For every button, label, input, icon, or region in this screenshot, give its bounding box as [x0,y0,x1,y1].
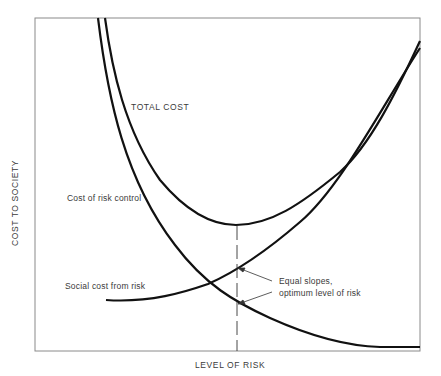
chart-canvas [0,0,441,376]
total-cost-label: TOTAL COST [131,102,189,112]
risk-control-label: Cost of risk control [67,193,141,203]
annotation-line-2: optimum level of risk [279,288,361,298]
risk-control-curve [98,18,420,347]
x-axis-label: LEVEL OF RISK [195,360,265,370]
social-cost-curve [106,48,420,301]
y-axis-label: COST TO SOCIETY [10,160,20,246]
total-cost-curve [105,18,420,225]
annotation-arrows [238,268,272,304]
social-cost-label: Social cost from risk [65,281,145,291]
annotation-line-1: Equal slopes, [279,276,333,286]
plot-frame [35,18,420,351]
